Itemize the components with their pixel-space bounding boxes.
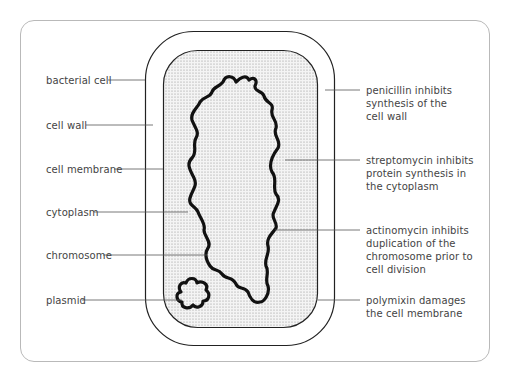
label-line: duplication of the (366, 237, 473, 250)
label-line: the cytoplasm (366, 180, 474, 193)
label-cell-membrane: cell membrane (46, 163, 122, 176)
label-penicillin: penicillin inhibits synthesis of the cel… (366, 84, 452, 123)
label-line: penicillin inhibits (366, 84, 452, 97)
label-line: streptomycin inhibits (366, 154, 474, 167)
cell-membrane-outline (164, 51, 318, 328)
label-chromosome: chromosome (46, 249, 112, 262)
label-line: chromosome prior to (366, 250, 473, 263)
label-plasmid: plasmid (46, 294, 86, 307)
label-streptomycin: streptomycin inhibits protein synthesis … (366, 154, 474, 193)
label-actinomycin: actinomycin inhibits duplication of the … (366, 224, 473, 276)
label-line: actinomycin inhibits (366, 224, 473, 237)
label-line: synthesis of the (366, 97, 452, 110)
label-line: protein synthesis in (366, 167, 474, 180)
label-line: cell division (366, 263, 473, 276)
label-cell-wall: cell wall (46, 119, 87, 132)
bacterial-cell-diagram: bacterial cell cell wall cell membrane c… (0, 0, 512, 384)
label-line: polymixin damages (366, 294, 466, 307)
label-line: cell wall (366, 110, 452, 123)
label-bacterial-cell: bacterial cell (46, 74, 112, 87)
label-line: the cell membrane (366, 307, 466, 320)
label-cytoplasm: cytoplasm (46, 206, 99, 219)
label-polymixin: polymixin damages the cell membrane (366, 294, 466, 320)
